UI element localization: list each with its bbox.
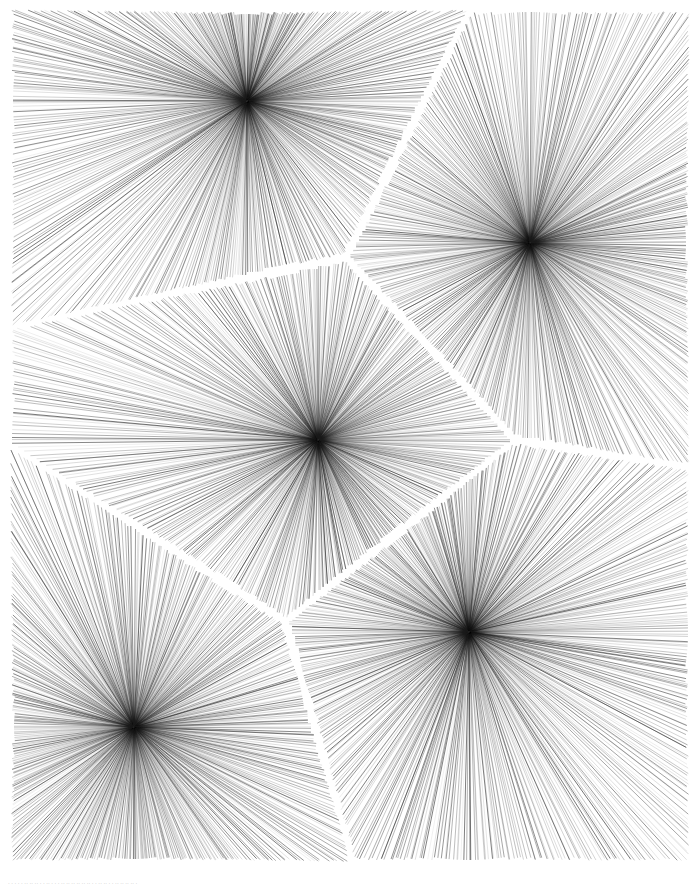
radial-burst-voronoi-svg bbox=[0, 0, 700, 872]
artwork-page: · · · · · ·· ·· ·· · · ·· · · · ·· ·· ··… bbox=[0, 0, 700, 893]
caption-line: · · · · · ·· ·· ·· · · ·· · · · ·· ·· ··… bbox=[8, 881, 692, 887]
caption-strip: · · · · · ·· ·· ·· · · ·· · · · ·· ·· ··… bbox=[0, 872, 700, 893]
generative-artwork-canvas bbox=[0, 0, 700, 872]
